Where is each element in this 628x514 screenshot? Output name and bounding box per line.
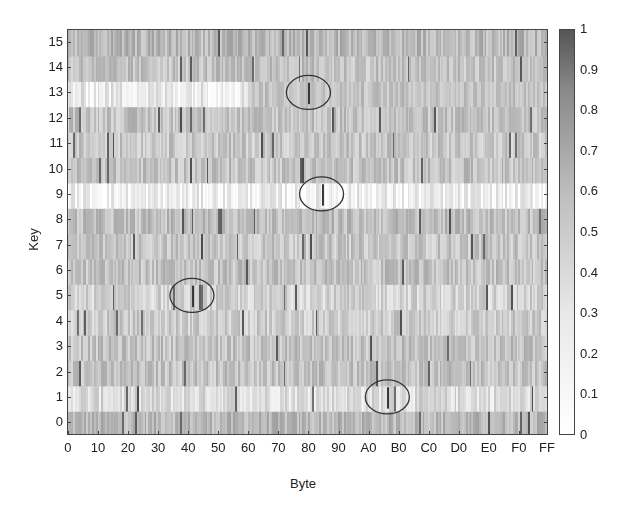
x-tick-label: 60 xyxy=(241,440,255,455)
x-tick-mark xyxy=(68,431,69,435)
x-tick-label: 40 xyxy=(181,440,195,455)
x-tick-label: F0 xyxy=(511,440,526,455)
x-tick-mark xyxy=(547,431,548,435)
x-tick-mark xyxy=(459,431,460,435)
y-tick-mark xyxy=(67,270,71,271)
x-tick-mark xyxy=(248,431,249,435)
y-tick-mark xyxy=(544,270,548,271)
x-tick-mark xyxy=(218,431,219,435)
y-tick-mark xyxy=(67,92,71,93)
x-tick-mark xyxy=(339,431,340,435)
y-tick-mark xyxy=(67,346,71,347)
y-tick-mark xyxy=(544,42,548,43)
x-tick-label: E0 xyxy=(481,440,497,455)
y-tick-label: 2 xyxy=(56,365,63,379)
y-tick-mark xyxy=(544,321,548,322)
y-tick-mark xyxy=(544,219,548,220)
y-tick-mark xyxy=(67,219,71,220)
y-tick-label: 12 xyxy=(49,111,63,125)
y-tick-mark xyxy=(67,422,71,423)
colorbar-tick-label: 0.7 xyxy=(580,144,598,158)
colorbar-tick-label: 0.5 xyxy=(580,225,598,239)
y-tick-mark xyxy=(544,422,548,423)
colorbar-tick-label: 0.3 xyxy=(580,306,598,320)
x-tick-mark xyxy=(98,431,99,435)
x-tick-label: 10 xyxy=(91,440,105,455)
y-tick-mark xyxy=(67,67,71,68)
x-tick-label: 50 xyxy=(211,440,225,455)
x-tick-label: D0 xyxy=(450,440,467,455)
x-tick-mark xyxy=(158,431,159,435)
x-tick-mark xyxy=(429,431,430,435)
y-tick-mark xyxy=(67,397,71,398)
x-tick-label: FF xyxy=(539,440,555,455)
y-tick-mark xyxy=(544,295,548,296)
x-tick-label: 80 xyxy=(301,440,315,455)
y-tick-label: 4 xyxy=(56,314,63,328)
y-tick-label: 8 xyxy=(56,212,63,226)
x-tick-mark xyxy=(399,431,400,435)
colorbar xyxy=(559,29,575,435)
y-tick-mark xyxy=(544,92,548,93)
y-tick-mark xyxy=(544,397,548,398)
y-tick-mark xyxy=(67,194,71,195)
x-tick-mark xyxy=(278,431,279,435)
colorbar-tick-label: 0.8 xyxy=(580,103,598,117)
x-tick-label: C0 xyxy=(420,440,437,455)
y-tick-label: 7 xyxy=(56,238,63,252)
y-tick-label: 14 xyxy=(49,60,63,74)
y-tick-label: 11 xyxy=(50,136,64,150)
x-tick-mark xyxy=(369,431,370,435)
y-tick-mark xyxy=(67,295,71,296)
y-tick-mark xyxy=(544,118,548,119)
x-tick-mark xyxy=(489,431,490,435)
colorbar-tick-label: 0.6 xyxy=(580,184,598,198)
x-axis-label: Byte xyxy=(290,476,316,491)
y-tick-mark xyxy=(544,143,548,144)
y-tick-label: 0 xyxy=(56,415,63,429)
x-tick-label: 70 xyxy=(271,440,285,455)
x-tick-label: 0 xyxy=(64,440,71,455)
y-tick-label: 3 xyxy=(56,339,63,353)
y-tick-mark xyxy=(67,372,71,373)
colorbar-tick-label: 0.2 xyxy=(580,347,598,361)
y-tick-label: 6 xyxy=(56,263,63,277)
x-tick-label: 30 xyxy=(151,440,165,455)
x-tick-mark xyxy=(188,431,189,435)
y-tick-mark xyxy=(67,321,71,322)
y-tick-mark xyxy=(544,67,548,68)
x-tick-mark xyxy=(519,431,520,435)
y-tick-mark xyxy=(67,245,71,246)
colorbar-tick-label: 0.9 xyxy=(580,63,598,77)
y-tick-mark xyxy=(544,372,548,373)
heatmap-plot-area xyxy=(67,29,548,435)
x-tick-mark xyxy=(308,431,309,435)
x-tick-label: A0 xyxy=(361,440,377,455)
y-tick-label: 5 xyxy=(56,288,63,302)
y-tick-label: 15 xyxy=(49,35,63,49)
y-tick-mark xyxy=(67,42,71,43)
x-tick-label: B0 xyxy=(391,440,407,455)
colorbar-tick-label: 1 xyxy=(580,22,587,36)
y-tick-mark xyxy=(67,143,71,144)
y-tick-mark xyxy=(544,169,548,170)
heatmap-canvas xyxy=(68,30,548,435)
y-tick-mark xyxy=(67,118,71,119)
y-tick-mark xyxy=(544,194,548,195)
y-tick-label: 13 xyxy=(49,85,63,99)
y-tick-label: 10 xyxy=(49,162,63,176)
y-tick-mark xyxy=(67,169,71,170)
x-tick-label: 20 xyxy=(121,440,135,455)
y-tick-label: 1 xyxy=(56,390,63,404)
x-tick-mark xyxy=(128,431,129,435)
colorbar-tick-label: 0.1 xyxy=(580,387,598,401)
y-tick-label: 9 xyxy=(56,187,63,201)
y-tick-mark xyxy=(544,245,548,246)
colorbar-tick-label: 0.4 xyxy=(580,266,598,280)
x-tick-label: 90 xyxy=(331,440,345,455)
colorbar-tick-label: 0 xyxy=(580,428,587,442)
y-axis-label: Key xyxy=(26,228,41,250)
y-tick-mark xyxy=(544,346,548,347)
